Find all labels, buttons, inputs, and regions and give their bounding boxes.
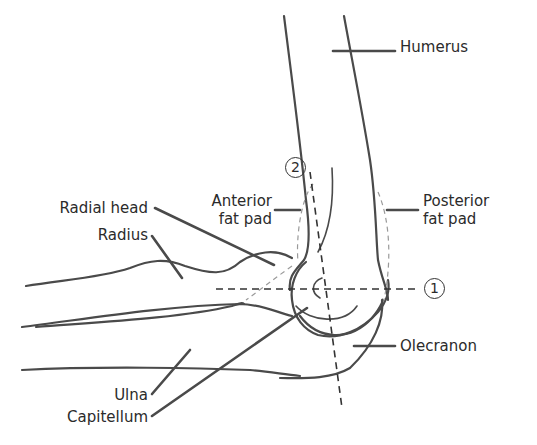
ulna-lower-line [22, 368, 300, 376]
ulna-upper-line [36, 303, 244, 327]
humerus-anterior-cortex [284, 16, 309, 290]
ulna-leader [152, 350, 190, 394]
label-anterior-line-2: fat pad [192, 210, 272, 228]
label-capitellum: Capitellum [40, 408, 148, 426]
marker-line-2: 2 [285, 157, 306, 178]
label-posterior-line-2: fat pad [423, 210, 489, 228]
label-olecranon: Olecranon [400, 337, 477, 355]
label-radius: Radius [60, 226, 148, 244]
radius-lower-line [22, 304, 292, 327]
anterior-fat-pad-extension [246, 266, 292, 300]
capitellum-arc [313, 278, 322, 298]
distal-humerus-outline [292, 262, 389, 336]
label-posterior-line-1: Posterior [423, 192, 489, 210]
marker-line-1: 1 [424, 278, 445, 299]
label-anterior-line-1: Anterior [192, 192, 272, 210]
label-ulna: Ulna [60, 386, 148, 404]
label-radial-head: Radial head [30, 199, 148, 217]
humerus-posterior-cortex [344, 16, 388, 300]
label-humerus: Humerus [400, 38, 468, 56]
coronoid-inner-line [318, 168, 332, 252]
label-posterior-fat-pad: Posterior fat pad [423, 192, 489, 228]
radius-upper-line [26, 252, 292, 286]
label-anterior-fat-pad: Anterior fat pad [192, 192, 272, 228]
capitellum-leader [152, 308, 307, 416]
radius-leader [152, 236, 182, 278]
